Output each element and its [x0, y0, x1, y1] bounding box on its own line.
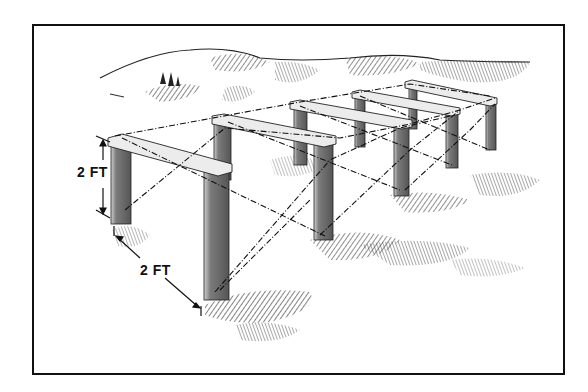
frame-3	[290, 100, 412, 196]
height-dimension-label: 2 FT	[77, 164, 108, 180]
barbed-wire-obstacle-illustration	[0, 0, 588, 392]
spacing-dimension-label: 2 FT	[140, 262, 171, 278]
frame-2	[212, 114, 336, 240]
